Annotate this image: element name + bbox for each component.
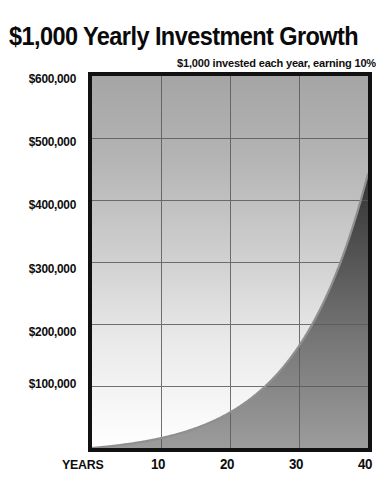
- y-axis-label-600000: $600,000: [0, 72, 76, 86]
- x-axis-title: YEARS: [62, 457, 104, 472]
- x-axis-label-10: 10: [151, 456, 165, 472]
- chart-canvas: [92, 76, 368, 448]
- y-axis-label-500000: $500,000: [0, 135, 76, 149]
- y-axis-label-400000: $400,000: [0, 198, 76, 212]
- x-axis-label-20: 20: [220, 456, 234, 472]
- plot-area: [88, 72, 372, 452]
- y-axis-label-100000: $100,000: [0, 377, 76, 391]
- chart-title: $1,000 Yearly Investment Growth: [9, 24, 353, 49]
- plot-inner: [92, 76, 368, 448]
- x-axis-label-30: 30: [289, 456, 303, 472]
- x-axis-label-40: 40: [358, 456, 372, 472]
- chart-root: $1,000 Yearly Investment Growth $1,000 i…: [0, 0, 382, 492]
- chart-subtitle: $1,000 invested each year, earning 10%: [15, 57, 376, 69]
- y-axis-label-200000: $200,000: [0, 325, 76, 339]
- y-axis-label-300000: $300,000: [0, 262, 76, 276]
